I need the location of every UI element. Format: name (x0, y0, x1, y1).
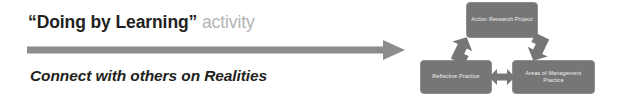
diagram-node-reflective-practice[interactable]: Reflective Practice (420, 60, 492, 94)
double-arrow-horizontal-icon (489, 68, 515, 86)
diagram-node-areas-of-management-practice[interactable]: Areas of Management Practice (512, 60, 595, 94)
diagram-node-label: Reflective Practice (432, 73, 480, 80)
subline-text: Connect with others on Realities (30, 66, 267, 86)
connector-top-to-right (527, 36, 549, 62)
elbow-arrow-down-icon (527, 36, 549, 62)
elbow-arrow-up-icon (451, 36, 473, 62)
slide-canvas: “Doing by Learning” activity Connect wit… (0, 0, 618, 100)
diagram-node-action-research-project[interactable]: Action Research Project (466, 2, 538, 38)
diagram-node-label: Areas of Management Practice (516, 70, 591, 85)
diagram-node-label: Action Research Project (471, 16, 532, 23)
progression-arrow-icon (27, 38, 405, 62)
connector-left-to-right (489, 68, 515, 86)
headline-plain-text: activity (197, 12, 254, 32)
action-research-cycle-diagram: Action Research Project Reflective Pract… (415, 0, 618, 100)
left-text-block: “Doing by Learning” activity Connect wit… (0, 0, 415, 100)
connector-left-to-top (451, 36, 473, 62)
progression-arrow (27, 38, 405, 62)
headline-quoted-text: “Doing by Learning” (28, 12, 197, 32)
headline: “Doing by Learning” activity (28, 11, 255, 33)
